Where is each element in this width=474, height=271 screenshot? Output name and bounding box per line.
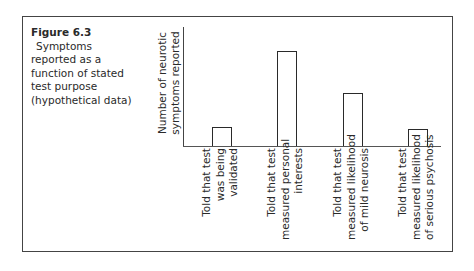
caption-line: function of stated: [31, 67, 156, 81]
bar: [277, 51, 297, 146]
x-tick-label-line: interests: [292, 148, 306, 240]
x-tick-label: Told that testmeasured personalinterests: [265, 148, 306, 240]
x-tick-label-line: validated: [227, 148, 241, 240]
caption-line: Symptoms: [31, 40, 156, 54]
y-axis: [183, 27, 184, 146]
bar: [212, 127, 232, 146]
x-tick-label: Told that testmeasured likelihoodof seri…: [396, 148, 437, 240]
figure-caption: Figure 6.3 Symptoms reported as a functi…: [31, 26, 156, 107]
x-tick-label-line: Told that test: [396, 148, 410, 240]
y-axis-label-line: symptoms reported: [169, 28, 182, 138]
x-tick-label: Told that testwas beingvalidated: [200, 148, 241, 240]
caption-line: reported as a: [31, 53, 156, 67]
x-axis: [183, 146, 441, 147]
x-tick-label-line: measured likelihood: [345, 148, 359, 240]
x-tick-label-line: Told that test: [331, 148, 345, 240]
y-axis-label: Number of neurotic symptoms reported: [156, 28, 182, 138]
x-tick-label-line: of serious psychosis: [423, 148, 437, 240]
x-tick-label-line: Told that test: [200, 148, 214, 240]
caption-line: (hypothetical data): [31, 94, 156, 108]
x-tick-label-line: was being: [214, 148, 228, 240]
figure-number: Figure 6.3: [31, 26, 156, 40]
x-tick-label-line: measured personal: [279, 148, 293, 240]
x-tick-label: Told that testmeasured likelihoodof mild…: [331, 148, 372, 240]
x-tick-label-line: measured likelihood: [410, 148, 424, 240]
y-axis-label-line: Number of neurotic: [156, 28, 169, 138]
caption-line: test purpose: [31, 80, 156, 94]
x-tick-label-line: Told that test: [265, 148, 279, 240]
x-tick-label-line: of mild neurosis: [358, 148, 372, 240]
